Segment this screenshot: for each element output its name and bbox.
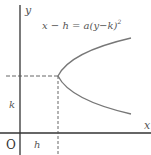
parabola-diagram: y x O h k x − h = a(y−k)2 [0, 0, 151, 155]
y-axis-label: y [24, 4, 32, 17]
x-axis-label: x [144, 119, 151, 132]
equation-label: x − h = a(y−k)2 [42, 18, 121, 31]
origin-label: O [6, 138, 16, 152]
h-label: h [34, 139, 40, 150]
k-label: k [9, 99, 15, 110]
parabola-curve [58, 38, 131, 114]
equation-exponent: 2 [116, 18, 121, 25]
equation-text: x − h = a(y−k) [42, 20, 118, 31]
